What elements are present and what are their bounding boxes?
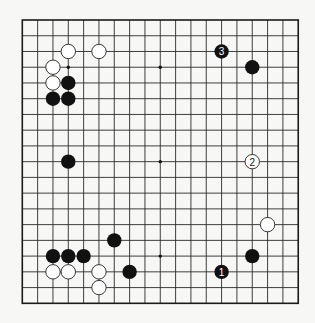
white-stone	[61, 44, 75, 58]
black-stone	[122, 265, 136, 279]
black-stone-move-1: 1	[214, 265, 228, 279]
black-stone	[46, 249, 60, 263]
white-stone-icon	[92, 44, 106, 58]
white-stone-icon	[46, 265, 60, 279]
white-stone	[260, 217, 274, 231]
black-stone	[46, 92, 60, 106]
black-stone-icon	[107, 233, 121, 247]
white-stone	[46, 60, 60, 74]
white-stone	[46, 76, 60, 90]
black-stone	[61, 92, 75, 106]
black-stone-icon	[122, 265, 136, 279]
star-point-icon	[159, 160, 162, 163]
black-stone-icon	[61, 249, 75, 263]
black-stone-icon	[245, 249, 259, 263]
black-stone-icon	[46, 92, 60, 106]
white-stone-move-2: 2	[245, 154, 259, 168]
black-stone	[61, 154, 75, 168]
move-number-label: 3	[219, 46, 225, 57]
move-number-label: 2	[249, 157, 255, 168]
white-stone	[92, 44, 106, 58]
black-stone-icon	[245, 60, 259, 74]
black-stone	[61, 249, 75, 263]
star-point-icon	[67, 66, 70, 69]
black-stone	[245, 249, 259, 263]
black-stone-icon	[46, 249, 60, 263]
black-stone	[245, 60, 259, 74]
white-stone-icon	[92, 280, 106, 294]
black-stone	[76, 249, 90, 263]
black-stone	[61, 76, 75, 90]
black-stone-icon	[61, 92, 75, 106]
go-board: 321	[0, 0, 315, 323]
black-stone-icon	[61, 154, 75, 168]
black-stone-move-3: 3	[214, 44, 228, 58]
white-stone	[92, 265, 106, 279]
white-stone	[46, 265, 60, 279]
move-number-label: 1	[219, 267, 225, 278]
white-stone-icon	[92, 265, 106, 279]
black-stone-icon	[61, 76, 75, 90]
white-stone-icon	[46, 76, 60, 90]
star-point-icon	[159, 254, 162, 257]
white-stone-icon	[260, 217, 274, 231]
black-stone-icon	[76, 249, 90, 263]
black-stone	[107, 233, 121, 247]
white-stone-icon	[61, 44, 75, 58]
white-stone-icon	[61, 265, 75, 279]
white-stone	[92, 280, 106, 294]
white-stone-icon	[46, 60, 60, 74]
star-point-icon	[159, 66, 162, 69]
white-stone	[61, 265, 75, 279]
